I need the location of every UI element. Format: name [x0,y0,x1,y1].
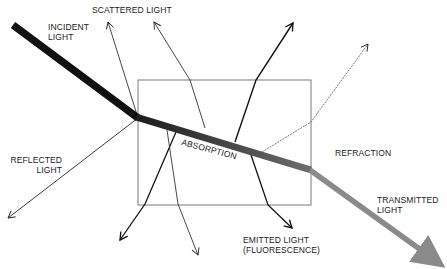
emitted-light-label: EMITTED LIGHT (FLUORESCENCE) [243,235,320,255]
absorbed-beam [136,117,311,170]
transmitted-label-line1: TRANSMITTED [377,195,439,205]
scattered-light-label: SCATTERED LIGHT [92,5,172,15]
refraction-label: REFRACTION [335,148,391,158]
incident-label-line2: LIGHT [48,32,89,42]
reflected-label-line2: LIGHT [6,165,62,175]
reflected-light-label: REFLECTED LIGHT [6,155,62,175]
scattered-arrow-right [154,22,205,128]
refraction-arrow [262,44,368,152]
reflected-label-line1: REFLECTED [6,155,62,165]
light-interaction-diagram: INCIDENT LIGHT SCATTERED LIGHT REFLECTED… [0,0,447,269]
emitted-label-line2: (FLUORESCENCE) [243,245,320,255]
emitted-label-line1: EMITTED LIGHT [243,235,320,245]
incident-label-line1: INCIDENT [48,22,89,32]
transmitted-light-label: TRANSMITTED LIGHT [377,195,439,215]
incident-light-label: INCIDENT LIGHT [48,22,89,42]
emitted-arrow-down-left [120,132,176,240]
transmitted-label-line2: LIGHT [377,205,439,215]
emitted-arrow-up [235,23,293,142]
